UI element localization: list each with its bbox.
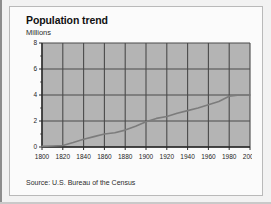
y-tick-label: 4 (33, 91, 37, 98)
left-edge-rule (0, 0, 2, 204)
x-tick-label: 1800 (35, 153, 50, 160)
figure-card: Population trend Millions 02468180018201… (9, 6, 263, 196)
x-tick-label: 1920 (160, 153, 175, 160)
x-tick-label: 1960 (201, 153, 216, 160)
x-tick-label: 1900 (139, 153, 154, 160)
y-tick-label: 6 (33, 65, 37, 72)
x-tick-label: 1840 (76, 153, 91, 160)
y-tick-label: 2 (33, 117, 37, 124)
plot-area: 0246818001820184018601880190019201940196… (24, 39, 252, 177)
chart-title: Population trend (26, 14, 108, 26)
y-tick-label: 8 (33, 39, 37, 46)
x-tick-label: 1880 (118, 153, 133, 160)
y-tick-label: 0 (33, 143, 37, 150)
x-tick-label: 1940 (180, 153, 195, 160)
line-chart: 0246818001820184018601880190019201940196… (24, 39, 252, 177)
x-tick-label: 1820 (56, 153, 71, 160)
bottom-edge-rule (0, 202, 271, 204)
x-tick-label: 1860 (97, 153, 112, 160)
source-note: Source: U.S. Bureau of the Census (26, 179, 135, 186)
x-tick-label: 2000 (243, 153, 252, 160)
y-axis-unit-label: Millions (26, 28, 51, 37)
screenshot-root: Population trend Millions 02468180018201… (0, 0, 271, 204)
x-tick-label: 1980 (222, 153, 237, 160)
